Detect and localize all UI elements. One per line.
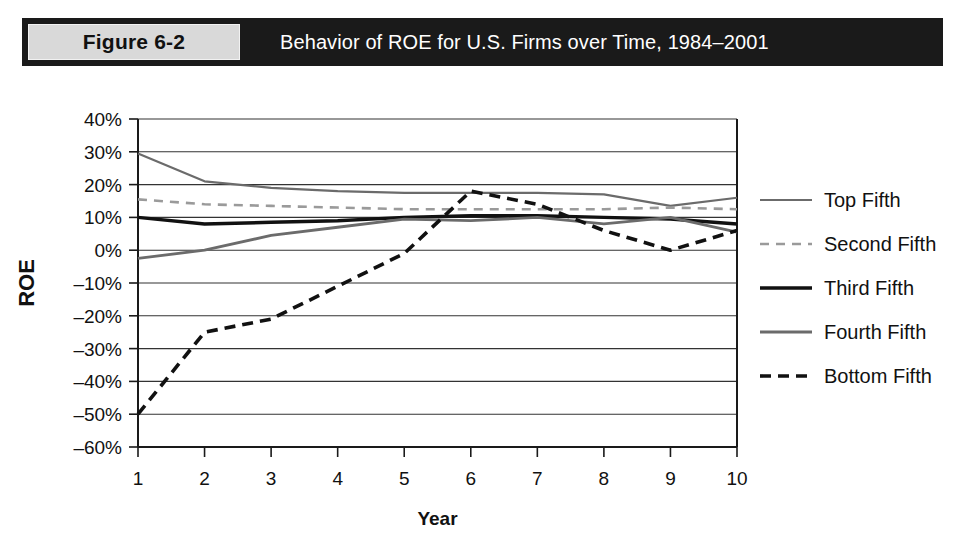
y-axis-tick-label: –40%	[73, 371, 122, 392]
legend-label-top-fifth: Top Fifth	[824, 189, 901, 211]
x-axis-tick-label: 1	[133, 468, 144, 489]
chart-y-axis: 40%30%20%10%0%–10%–20%–30%–40%–50%–60%	[73, 109, 138, 458]
chart-series-group	[138, 153, 737, 414]
x-axis-tick-label: 7	[532, 468, 543, 489]
x-axis-tick-label: 9	[665, 468, 676, 489]
x-axis-tick-label: 4	[332, 468, 343, 489]
series-line-top-fifth	[138, 153, 737, 205]
figure-number-tag: Figure 6-2	[28, 24, 240, 60]
x-axis-tick-label: 5	[399, 468, 410, 489]
y-axis-tick-label: –50%	[73, 404, 122, 425]
y-axis-tick-label: 10%	[84, 207, 122, 228]
y-axis-tick-label: 20%	[84, 175, 122, 196]
figure-number-label: Figure 6-2	[83, 30, 185, 54]
figure-title-label: Behavior of ROE for U.S. Firms over Time…	[280, 31, 769, 54]
legend-label-bottom-fifth: Bottom Fifth	[824, 365, 932, 387]
x-axis-tick-label: 6	[465, 468, 476, 489]
x-axis-tick-label: 2	[199, 468, 210, 489]
y-axis-tick-label: 0%	[95, 240, 123, 261]
chart-legend: Top FifthSecond FifthThird FifthFourth F…	[760, 189, 936, 387]
legend-label-second-fifth: Second Fifth	[824, 233, 936, 255]
chart-x-axis-title: Year	[417, 508, 458, 529]
y-axis-tick-label: –20%	[73, 306, 122, 327]
x-axis-title: Year	[417, 508, 458, 529]
figure-header-bar: Figure 6-2 Behavior of ROE for U.S. Firm…	[22, 18, 943, 66]
y-axis-tick-label: –60%	[73, 437, 122, 458]
y-axis-tick-label: –10%	[73, 273, 122, 294]
y-axis-title: ROE	[14, 259, 39, 307]
y-axis-tick-label: 40%	[84, 109, 122, 130]
x-axis-tick-label: 3	[266, 468, 277, 489]
roe-line-chart: 40%30%20%10%0%–10%–20%–30%–40%–50%–60% 1…	[0, 72, 965, 554]
chart-gridlines	[138, 119, 737, 447]
y-axis-tick-label: –30%	[73, 339, 122, 360]
legend-label-third-fifth: Third Fifth	[824, 277, 914, 299]
chart-container: 40%30%20%10%0%–10%–20%–30%–40%–50%–60% 1…	[0, 72, 965, 554]
legend-label-fourth-fifth: Fourth Fifth	[824, 321, 926, 343]
chart-y-axis-title: ROE	[14, 259, 39, 307]
x-axis-tick-label: 8	[599, 468, 610, 489]
chart-x-axis: 12345678910	[133, 119, 748, 489]
x-axis-tick-label: 10	[726, 468, 747, 489]
y-axis-tick-label: 30%	[84, 142, 122, 163]
